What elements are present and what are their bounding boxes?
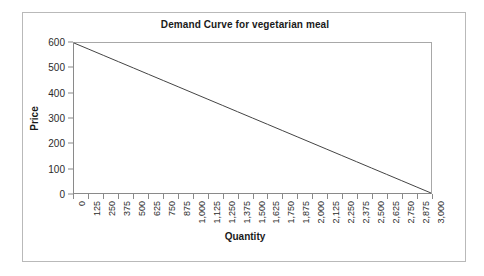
- x-tick-mark: [267, 194, 268, 199]
- x-tick-label: 375: [122, 201, 132, 216]
- x-tick-label: 125: [92, 201, 102, 216]
- x-tick-mark: [103, 194, 104, 199]
- x-tick-label: 1,125: [212, 201, 222, 224]
- x-tick-label: 0: [77, 201, 87, 206]
- y-tick-label: 500: [48, 62, 65, 73]
- y-axis: 6005004003002001000: [23, 42, 69, 194]
- x-tick-mark: [238, 194, 239, 199]
- x-tick-label: 1,250: [227, 201, 237, 224]
- x-tick-label: 2,250: [346, 201, 356, 224]
- x-tick-label: 1,500: [257, 201, 267, 224]
- x-tick-label: 750: [167, 201, 177, 216]
- y-tick-label: 400: [48, 87, 65, 98]
- x-tick-mark: [253, 194, 254, 199]
- x-tick-mark: [178, 194, 179, 199]
- y-tick-label: 100: [48, 163, 65, 174]
- x-tick-label: 2,000: [316, 201, 326, 224]
- x-tick-label: 1,750: [286, 201, 296, 224]
- x-tick-mark: [432, 194, 433, 199]
- x-tick-mark: [387, 194, 388, 199]
- x-tick-mark: [208, 194, 209, 199]
- x-tick-label: 1,625: [271, 201, 281, 224]
- x-tick-label: 3,000: [436, 201, 446, 224]
- x-tick-mark: [133, 194, 134, 199]
- x-tick-mark: [297, 194, 298, 199]
- y-tick-label: 600: [48, 37, 65, 48]
- x-tick-mark: [88, 194, 89, 199]
- x-tick-label: 2,375: [361, 201, 371, 224]
- x-tick-mark: [342, 194, 343, 199]
- x-tick-mark: [312, 194, 313, 199]
- chart-title: Demand Curve for vegetarian meal: [23, 19, 467, 30]
- x-tick-mark: [402, 194, 403, 199]
- x-tick-mark: [73, 194, 74, 199]
- x-tick-mark: [417, 194, 418, 199]
- x-tick-label: 2,875: [421, 201, 431, 224]
- x-tick-label: 2,625: [391, 201, 401, 224]
- x-tick-mark: [223, 194, 224, 199]
- demand-curve-line: [74, 43, 431, 193]
- y-tick-label: 300: [48, 113, 65, 124]
- x-tick-label: 250: [107, 201, 117, 216]
- x-tick-label: 2,125: [331, 201, 341, 224]
- x-tick-mark: [148, 194, 149, 199]
- x-axis: 01252503755006257508751,0001,1251,2501,3…: [73, 194, 433, 264]
- y-tick-label: 200: [48, 138, 65, 149]
- x-tick-mark: [372, 194, 373, 199]
- x-tick-mark: [163, 194, 164, 199]
- y-tick-label: 0: [59, 189, 65, 200]
- x-tick-mark: [282, 194, 283, 199]
- x-tick-label: 1,375: [242, 201, 252, 224]
- x-tick-mark: [327, 194, 328, 199]
- x-tick-mark: [118, 194, 119, 199]
- x-tick-label: 1,000: [197, 201, 207, 224]
- x-tick-label: 500: [137, 201, 147, 216]
- x-tick-label: 1,875: [301, 201, 311, 224]
- x-axis-title: Quantity: [23, 231, 467, 242]
- x-tick-label: 2,750: [406, 201, 416, 224]
- x-tick-mark: [357, 194, 358, 199]
- x-tick-mark: [193, 194, 194, 199]
- x-tick-label: 625: [152, 201, 162, 216]
- chart-figure-frame: Demand Curve for vegetarian meal Price 6…: [22, 12, 466, 262]
- x-tick-label: 875: [182, 201, 192, 216]
- x-tick-label: 2,500: [376, 201, 386, 224]
- plot-area: [73, 42, 432, 194]
